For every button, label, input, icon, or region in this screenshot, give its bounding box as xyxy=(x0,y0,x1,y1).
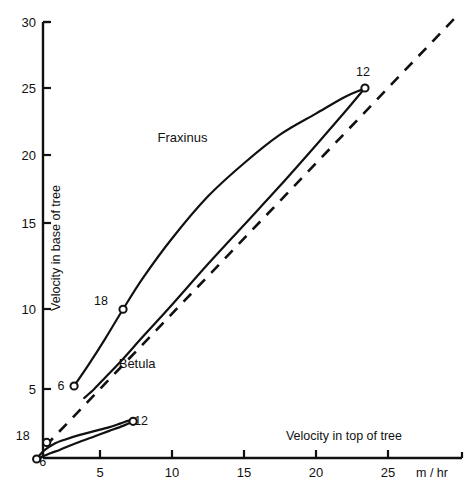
y-tick-label-15: 15 xyxy=(22,216,36,231)
x-tick-label-25: 25 xyxy=(381,465,395,480)
data-point-fraxinus-12 xyxy=(361,84,368,91)
y-tick-label-30: 30 xyxy=(22,15,36,30)
data-point-label-fraxinus-18: 18 xyxy=(94,294,108,308)
reference-line-1to1 xyxy=(45,13,460,446)
data-point-label-fraxinus-6: 6 xyxy=(58,379,65,393)
x-axis-tick-labels: 5 10 15 20 25 xyxy=(96,465,395,480)
x-tick-label-20: 20 xyxy=(309,465,323,480)
y-axis-tick-labels: 30 25 20 15 10 5 xyxy=(22,15,36,397)
data-point-fraxinus-18 xyxy=(119,306,126,313)
series-label-fraxinus: Fraxinus xyxy=(158,130,208,145)
y-axis-title: Velocity in base of tree xyxy=(49,185,63,311)
data-series-layer xyxy=(37,13,460,459)
data-point-label-betula-12: 12 xyxy=(134,414,148,428)
data-point-fraxinus-6 xyxy=(70,382,77,389)
series-label-betula: Betula xyxy=(119,356,157,371)
x-axis-title: Velocity in top of tree xyxy=(286,429,402,443)
chart-figure: 30 25 20 15 10 5 5 10 15 20 25 Velocity … xyxy=(0,0,471,482)
data-point-label-fraxinus-12: 12 xyxy=(356,65,370,79)
data-marker-layer: 6181261812 xyxy=(16,65,370,469)
velocity-hysteresis-chart: 30 25 20 15 10 5 5 10 15 20 25 Velocity … xyxy=(0,0,471,482)
data-point-label-betula-6: 6 xyxy=(39,455,46,469)
x-axis-units: m / hr xyxy=(416,466,448,480)
x-tick-label-10: 10 xyxy=(165,465,179,480)
y-tick-label-5: 5 xyxy=(29,382,36,397)
data-point-betula-18 xyxy=(43,439,50,446)
curve-fraxinus-upper-branch xyxy=(74,88,365,386)
data-point-label-betula-18: 18 xyxy=(16,429,30,443)
y-tick-label-20: 20 xyxy=(22,148,36,163)
y-tick-label-10: 10 xyxy=(22,302,36,317)
x-tick-label-5: 5 xyxy=(96,465,103,480)
curve-fraxinus-lower-branch xyxy=(84,88,365,398)
y-tick-label-25: 25 xyxy=(22,81,36,96)
axes xyxy=(43,22,462,458)
x-tick-label-15: 15 xyxy=(237,465,251,480)
